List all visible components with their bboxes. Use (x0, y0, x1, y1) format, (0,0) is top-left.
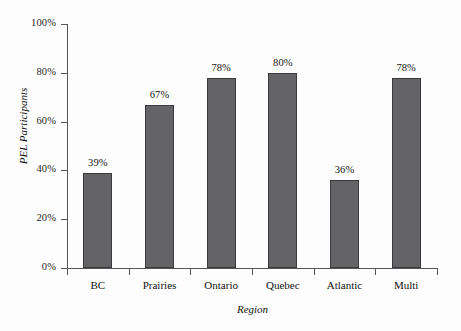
bar-value-label: 67% (136, 89, 184, 100)
y-axis-line (67, 24, 68, 269)
y-axis-tick-label: 100% (12, 17, 56, 28)
bar (83, 173, 112, 268)
y-axis-tick-label: 20% (12, 212, 56, 223)
x-axis-tick (437, 269, 438, 275)
x-axis-tick (129, 269, 130, 275)
bar-value-label: 80% (259, 57, 307, 68)
bar-value-label: 39% (74, 157, 122, 168)
bar (330, 180, 359, 268)
bar (268, 73, 297, 268)
y-axis-tick-label: 40% (12, 163, 56, 174)
x-axis-tick (375, 269, 376, 275)
bar-chart: PEL Participants 0%20%40%60%80%100% 39%B… (0, 0, 461, 331)
x-axis-tick (67, 269, 68, 275)
x-axis-category-label: Multi (366, 279, 446, 291)
x-axis-tick (190, 269, 191, 275)
bar-value-label: 36% (321, 164, 369, 175)
y-axis-tick (61, 73, 67, 74)
bar (392, 78, 421, 268)
y-axis-tick-label: 0% (12, 261, 56, 272)
y-axis-tick (61, 24, 67, 25)
x-axis-tick (314, 269, 315, 275)
y-axis-tick-label: 60% (12, 115, 56, 126)
bar-value-label: 78% (197, 62, 245, 73)
y-axis-tick-label: 80% (12, 66, 56, 77)
bar-value-label: 78% (382, 62, 430, 73)
x-axis-title: Region (67, 303, 438, 315)
y-axis-tick (61, 219, 67, 220)
y-axis-tick (61, 122, 67, 123)
y-axis-tick (61, 170, 67, 171)
y-axis-title: PEL Participants (17, 56, 29, 196)
bar (145, 105, 174, 268)
x-axis-tick (252, 269, 253, 275)
bar (207, 78, 236, 268)
